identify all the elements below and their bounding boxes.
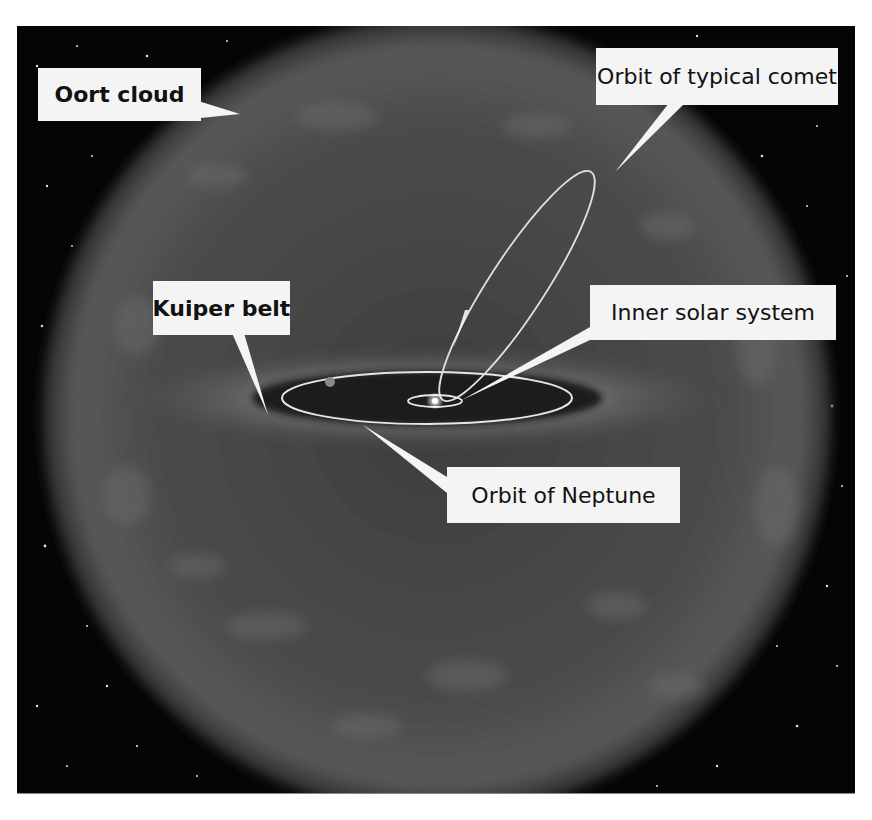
label-oort-cloud: Oort cloud — [38, 68, 201, 121]
label-text: Inner solar system — [611, 300, 815, 325]
label-text: Orbit of Neptune — [471, 483, 655, 508]
label-orbit-typical-comet: Orbit of typical comet — [596, 48, 838, 105]
oort-cloud-illustration — [17, 26, 855, 793]
label-text: Oort cloud — [55, 82, 185, 107]
sun — [432, 398, 438, 404]
label-inner-solar-system: Inner solar system — [590, 285, 836, 340]
neptune — [325, 377, 335, 387]
label-orbit-neptune: Orbit of Neptune — [447, 467, 680, 523]
diagram-frame — [17, 26, 855, 794]
label-text: Kuiper belt — [153, 296, 291, 321]
label-kuiper-belt: Kuiper belt — [153, 281, 290, 335]
label-text: Orbit of typical comet — [597, 64, 837, 89]
